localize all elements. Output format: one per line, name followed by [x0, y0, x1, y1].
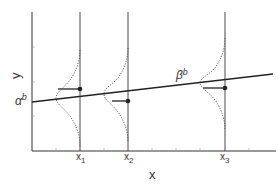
distribution-curve-x3	[200, 38, 225, 130]
x-tick-label-1-sub: 1	[81, 156, 86, 165]
data-point-x2	[126, 99, 131, 104]
x-tick-label-3-sub: 3	[225, 156, 230, 165]
diagram-canvas: y αb βb x1 x2 x3 x	[0, 0, 279, 186]
intercept-label: αb	[15, 92, 27, 108]
data-point-x3	[223, 86, 228, 91]
regression-line	[32, 74, 273, 102]
data-point-x1	[78, 87, 83, 92]
x-tick-label-2-sub: 2	[129, 156, 134, 165]
x-tick-label-1: x1	[76, 151, 86, 165]
slope-label: βb	[175, 67, 188, 82]
intercept-label-sup: b	[22, 92, 27, 102]
x-axis-label: x	[149, 167, 156, 182]
x-tick-label-3: x3	[220, 151, 230, 165]
slope-label-base: β	[175, 68, 183, 82]
distribution-curve-x2	[104, 48, 128, 142]
y-axis-label: y	[8, 72, 23, 79]
slope-label-sup: b	[183, 67, 188, 77]
x-tick-label-2: x2	[124, 151, 134, 165]
